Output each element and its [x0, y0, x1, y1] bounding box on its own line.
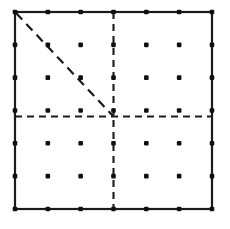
lattice-dot	[210, 75, 215, 80]
lattice-dot	[13, 108, 18, 113]
lattice-dot	[13, 43, 18, 48]
lattice-dot	[78, 141, 83, 146]
lattice-dot	[177, 108, 182, 113]
lattice-dot	[144, 141, 149, 146]
lattice-dot	[46, 108, 51, 113]
lattice-dot	[144, 207, 149, 212]
lattice-dot	[46, 207, 51, 212]
lattice-dot	[78, 43, 83, 48]
lattice-dot	[78, 207, 83, 212]
lattice-dot	[210, 174, 215, 179]
lattice-dot	[13, 207, 18, 212]
lattice-dot	[144, 43, 149, 48]
lattice-dot	[46, 141, 51, 146]
lattice-dot	[46, 174, 51, 179]
lattice-dot	[177, 141, 182, 146]
lattice-figure	[0, 0, 230, 229]
lattice-dot	[111, 43, 116, 48]
figure-container	[0, 0, 230, 229]
lattice-dot	[111, 75, 116, 80]
lattice-dot	[144, 174, 149, 179]
lattice-dot	[46, 10, 51, 15]
lattice-dot	[78, 75, 83, 80]
lattice-dot	[13, 174, 18, 179]
lattice-dot	[13, 10, 18, 15]
lattice-dot	[144, 75, 149, 80]
lattice-dot	[111, 174, 116, 179]
lattice-dot	[210, 10, 215, 15]
lattice-dot	[177, 10, 182, 15]
lattice-dot	[177, 43, 182, 48]
lattice-dot	[210, 207, 215, 212]
lattice-dot	[46, 75, 51, 80]
lattice-dot	[144, 10, 149, 15]
lattice-dot	[13, 141, 18, 146]
lattice-dot	[111, 10, 116, 15]
lattice-dot	[177, 207, 182, 212]
lattice-dot	[210, 43, 215, 48]
lattice-dot	[111, 141, 116, 146]
lattice-dot	[111, 207, 116, 212]
lattice-dot	[210, 108, 215, 113]
lattice-dot	[78, 10, 83, 15]
lattice-dot	[13, 75, 18, 80]
figure-background	[0, 0, 230, 229]
lattice-dot	[46, 43, 51, 48]
lattice-dot	[78, 174, 83, 179]
lattice-dot	[111, 108, 116, 113]
lattice-dot	[177, 174, 182, 179]
lattice-dot	[210, 141, 215, 146]
lattice-dot	[144, 108, 149, 113]
lattice-dot	[78, 108, 83, 113]
lattice-dot	[177, 75, 182, 80]
